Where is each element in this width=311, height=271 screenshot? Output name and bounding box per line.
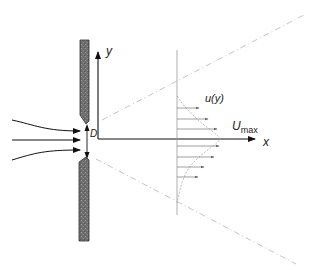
y-axis-label: y <box>105 44 113 58</box>
umax-label: Umax <box>232 119 258 135</box>
x-axis: x <box>98 135 270 149</box>
arrowhead-up-icon <box>85 124 90 131</box>
jet-diagram: D y x u(y) Umax <box>0 0 311 271</box>
profile-curve <box>177 96 220 203</box>
upper-spread-line <box>102 15 304 120</box>
orifice-plate <box>79 40 89 241</box>
upper-wall <box>80 40 89 124</box>
diameter-label: D <box>90 128 97 139</box>
lower-wall <box>79 157 89 241</box>
x-axis-label: x <box>262 135 270 149</box>
inflow-arrow-upper <box>12 120 80 131</box>
inflow-streamlines <box>12 120 80 160</box>
velocity-profile-label: u(y) <box>205 92 224 104</box>
lower-spread-line <box>96 159 296 264</box>
velocity-profile: u(y) Umax <box>177 50 258 215</box>
inflow-arrow-lower <box>12 150 80 160</box>
diameter-dimension: D <box>85 124 98 159</box>
y-axis: y <box>98 44 113 139</box>
